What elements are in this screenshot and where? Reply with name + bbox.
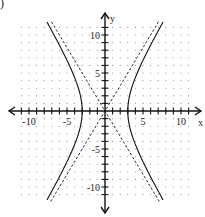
grid-dot bbox=[188, 171, 189, 172]
grid-dot bbox=[180, 42, 181, 43]
grid-dot bbox=[66, 27, 67, 28]
grid-dot bbox=[142, 194, 143, 195]
grid-dot bbox=[188, 194, 189, 195]
grid-dot bbox=[158, 42, 159, 43]
grid-dot bbox=[82, 34, 83, 35]
grid-dot bbox=[51, 103, 52, 104]
grid-dot bbox=[59, 126, 60, 127]
grid-dot bbox=[188, 72, 189, 73]
grid-dot bbox=[74, 171, 75, 172]
grid-dot bbox=[142, 34, 143, 35]
grid-dot bbox=[188, 88, 189, 89]
grid-dot bbox=[120, 126, 121, 127]
grid-dot bbox=[97, 118, 98, 119]
grid-dot bbox=[51, 88, 52, 89]
grid-dot bbox=[188, 50, 189, 51]
grid-dot bbox=[74, 34, 75, 35]
grid-dot bbox=[28, 42, 29, 43]
grid-dot bbox=[97, 171, 98, 172]
grid-dot bbox=[158, 65, 159, 66]
grid-dot bbox=[173, 65, 174, 66]
grid-dot bbox=[127, 88, 128, 89]
grid-dot bbox=[142, 42, 143, 43]
grid-dot bbox=[112, 50, 113, 51]
grid-dot bbox=[158, 164, 159, 165]
grid-dot bbox=[74, 133, 75, 134]
grid-dot bbox=[66, 133, 67, 134]
grid-dot bbox=[74, 72, 75, 73]
grid-dot bbox=[142, 50, 143, 51]
grid-dot bbox=[59, 186, 60, 187]
grid-dot bbox=[28, 95, 29, 96]
grid-dot bbox=[173, 141, 174, 142]
grid-dot bbox=[150, 179, 151, 180]
grid-dot bbox=[66, 179, 67, 180]
grid-dot bbox=[21, 57, 22, 58]
grid-dot bbox=[173, 72, 174, 73]
x-tick-label: 10 bbox=[176, 116, 186, 127]
grid-dot bbox=[44, 156, 45, 157]
grid-dot bbox=[135, 179, 136, 180]
grid-dot bbox=[188, 42, 189, 43]
grid-dot bbox=[66, 50, 67, 51]
grid-dot bbox=[158, 194, 159, 195]
grid-dot bbox=[82, 42, 83, 43]
grid-dot bbox=[150, 50, 151, 51]
grid-dot bbox=[89, 156, 90, 157]
grid-dot bbox=[28, 141, 29, 142]
grid-dot bbox=[165, 141, 166, 142]
y-tick-label: 5 bbox=[95, 68, 100, 79]
grid-dot bbox=[44, 194, 45, 195]
grid-dot bbox=[112, 133, 113, 134]
x-axis-label: x bbox=[198, 117, 203, 128]
axes bbox=[9, 13, 201, 213]
grid-dot bbox=[21, 88, 22, 89]
grid-dot bbox=[120, 156, 121, 157]
grid-dot bbox=[21, 95, 22, 96]
grid-dot bbox=[82, 27, 83, 28]
grid-dot bbox=[158, 141, 159, 142]
grid-dot bbox=[158, 126, 159, 127]
grid-dot bbox=[44, 34, 45, 35]
grid-dot bbox=[127, 95, 128, 96]
grid-dot bbox=[74, 186, 75, 187]
grid-dot bbox=[127, 133, 128, 134]
x-tick-label: -5 bbox=[63, 116, 71, 127]
grid-dot bbox=[74, 164, 75, 165]
grid-dot bbox=[21, 72, 22, 73]
grid-dot bbox=[120, 148, 121, 149]
grid-dot bbox=[44, 179, 45, 180]
grid-dot bbox=[135, 118, 136, 119]
grid-dot bbox=[135, 65, 136, 66]
grid-dot bbox=[120, 80, 121, 81]
grid-dot bbox=[82, 171, 83, 172]
grid-dot bbox=[127, 34, 128, 35]
grid-dot bbox=[112, 194, 113, 195]
grid-dot bbox=[173, 194, 174, 195]
grid-dot bbox=[21, 133, 22, 134]
grid-dot bbox=[89, 80, 90, 81]
grid-dot bbox=[112, 103, 113, 104]
grid-dot bbox=[188, 80, 189, 81]
grid-dot bbox=[150, 171, 151, 172]
grid-dot bbox=[21, 103, 22, 104]
grid-dot bbox=[66, 72, 67, 73]
grid-dot bbox=[173, 27, 174, 28]
grid-dot bbox=[82, 133, 83, 134]
grid-dot bbox=[36, 156, 37, 157]
grid-dot bbox=[21, 80, 22, 81]
grid-dot bbox=[135, 171, 136, 172]
grid-dot bbox=[89, 57, 90, 58]
grid-dot bbox=[127, 65, 128, 66]
grid-dot bbox=[97, 50, 98, 51]
grid-dot bbox=[28, 27, 29, 28]
grid-dot bbox=[82, 179, 83, 180]
grid-dot bbox=[150, 133, 151, 134]
grid-dot bbox=[180, 50, 181, 51]
grid-dot bbox=[135, 88, 136, 89]
grid-dot bbox=[59, 50, 60, 51]
grid-dot bbox=[66, 164, 67, 165]
grid-dot bbox=[127, 186, 128, 187]
grid-dot bbox=[188, 133, 189, 134]
grid-dot bbox=[36, 27, 37, 28]
